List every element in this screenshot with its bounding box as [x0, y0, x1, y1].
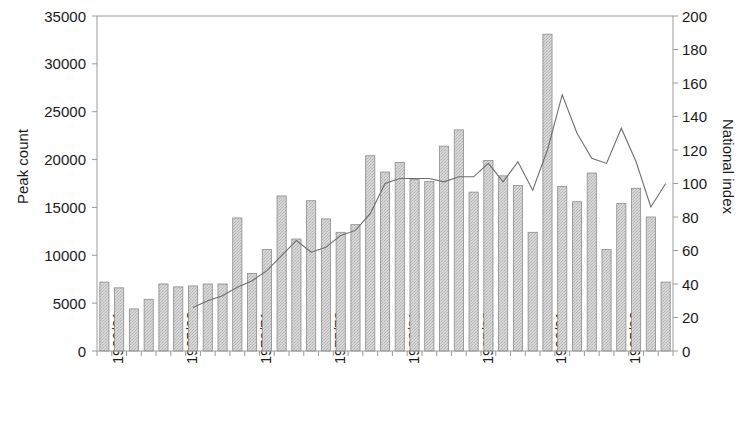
bar — [661, 282, 670, 351]
bar — [115, 288, 124, 351]
bar — [100, 282, 109, 351]
bar — [587, 173, 596, 351]
bar — [188, 286, 197, 351]
bar — [159, 284, 168, 351]
bar — [454, 130, 463, 351]
bar — [174, 287, 183, 351]
bar — [440, 146, 449, 351]
bar — [558, 186, 567, 351]
bar — [425, 182, 434, 351]
bar — [380, 172, 389, 351]
bar-series — [100, 34, 670, 351]
bar — [484, 161, 493, 351]
bar — [203, 284, 212, 351]
chart-figure: Peak count National index 05000100001500… — [0, 0, 743, 435]
bar — [351, 225, 360, 351]
bar — [395, 162, 404, 351]
bar — [129, 309, 138, 351]
bar — [602, 250, 611, 351]
bar — [233, 218, 242, 351]
bar — [528, 232, 537, 351]
chart-plot-area — [0, 0, 743, 435]
bar — [646, 217, 655, 351]
bar — [292, 239, 301, 351]
bar — [321, 219, 330, 351]
bar — [499, 176, 508, 351]
bar — [262, 250, 271, 351]
bar — [277, 196, 286, 351]
bar — [144, 299, 153, 351]
bar — [366, 156, 375, 351]
bar — [307, 201, 316, 351]
bar — [410, 180, 419, 351]
bar — [543, 34, 552, 351]
bar — [572, 202, 581, 351]
bar — [617, 204, 626, 351]
bar — [248, 273, 257, 351]
bar — [513, 185, 522, 351]
bar — [336, 232, 345, 351]
bar — [469, 192, 478, 351]
bar — [632, 188, 641, 351]
